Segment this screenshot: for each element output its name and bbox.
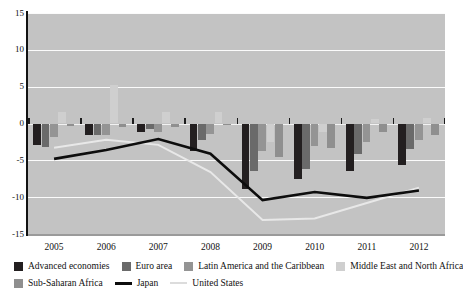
legend-swatch-line [115,282,132,285]
legend-item[interactable]: Advanced economies [14,261,110,271]
x-tick-mark [393,118,395,124]
x-axis-ticks: 20052006200720082009201020112012 [28,241,445,255]
legend-label: Middle East and North Africa [350,261,463,271]
y-tick-label: 5 [0,82,24,91]
legend-item[interactable]: Latin America and the Caribbean [184,261,324,271]
legend-item[interactable]: Euro area [122,261,173,271]
y-tick-label: 10 [0,45,24,54]
x-tick-label: 2006 [97,241,116,253]
legend-swatch-square [122,262,131,271]
x-tick-label: 2012 [409,241,428,253]
y-tick-label: 0 [0,119,24,128]
chart-legend: Advanced economiesEuro areaLatin America… [0,258,448,294]
y-tick-label: 15 [0,9,24,18]
legend-item[interactable]: Japan [115,278,159,288]
x-tick-label: 2007 [149,241,168,253]
legend-row-secondary: Sub-Saharan AfricaJapanUnited States [14,275,448,291]
x-tick-mark [184,118,186,124]
legend-swatch-line-thin [170,282,187,284]
x-tick-mark [289,118,291,124]
legend-label: Advanced economies [28,261,110,271]
legend-label: Sub-Saharan Africa [28,278,103,288]
x-tick-mark [132,118,134,124]
x-tick-label: 2008 [201,241,220,253]
legend-label: United States [192,278,243,288]
y-tick-label: -5 [0,156,24,165]
line-series-layer [28,13,445,234]
legend-swatch-square [336,262,345,271]
legend-row-primary: Advanced economiesEuro areaLatin America… [14,258,448,274]
line-series [54,139,419,200]
x-tick-mark [444,118,446,124]
x-tick-label: 2010 [305,241,324,253]
x-tick-label: 2005 [45,241,64,253]
line-series [54,140,419,220]
legend-swatch-square [14,262,23,271]
x-tick-label: 2009 [253,241,272,253]
legend-item[interactable]: United States [170,278,243,288]
y-tick-label: -10 [0,193,24,202]
y-axis-ticks: 151050-5-10-15 [0,0,24,294]
legend-label: Euro area [136,261,173,271]
legend-item[interactable]: Sub-Saharan Africa [14,278,103,288]
x-tick-mark [28,118,30,124]
x-tick-mark [80,118,82,124]
legend-label: Japan [137,278,159,288]
legend-label: Latin America and the Caribbean [198,261,324,271]
legend-swatch-square [184,262,193,271]
plot-area [28,13,445,234]
legend-swatch-square [14,279,23,288]
y-tick-label: -15 [0,230,24,239]
x-tick-mark [341,118,343,124]
legend-item[interactable]: Middle East and North Africa [336,261,463,271]
x-tick-mark [237,118,239,124]
x-tick-label: 2011 [357,241,376,253]
x-axis-line [28,234,445,236]
